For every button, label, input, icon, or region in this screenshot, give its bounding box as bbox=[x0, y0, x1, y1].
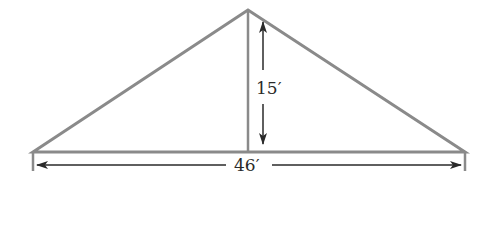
base-label: 46′ bbox=[230, 156, 264, 174]
height-label: 15′ bbox=[254, 79, 284, 97]
